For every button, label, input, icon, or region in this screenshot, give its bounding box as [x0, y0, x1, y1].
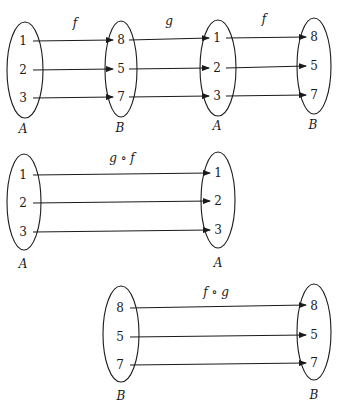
function-label: g — [165, 14, 173, 28]
element: 2 — [19, 196, 27, 210]
element: 2 — [19, 63, 27, 77]
element: 8 — [117, 33, 125, 47]
element: 7 — [310, 88, 318, 102]
mapping-arrow — [129, 96, 209, 97]
mapping-arrow — [129, 38, 209, 40]
mapping-arrow — [33, 69, 113, 70]
element: 7 — [117, 90, 125, 104]
element: 8 — [116, 301, 124, 315]
element: 1 — [19, 34, 27, 48]
mapping-arrow — [33, 173, 210, 175]
mapping-arrow — [226, 37, 306, 38]
function-label: f ∘ g — [202, 285, 229, 299]
mapping-arrow — [130, 363, 306, 365]
set-label: A — [18, 257, 28, 271]
mapping-arrow — [33, 97, 113, 98]
element: 1 — [19, 168, 27, 182]
element: 1 — [214, 166, 222, 180]
g-compose-f-diagram: 1 2 3 1 2 3 g ∘ f A A — [7, 151, 235, 271]
mapping-arrow — [33, 40, 113, 41]
f-compose-g-diagram: 8 5 7 8 5 7 f ∘ g B B — [103, 284, 331, 403]
function-composition-diagram: 1 2 3 8 5 7 1 2 3 8 5 7 f g f A B A B — [0, 0, 343, 413]
element: 2 — [213, 61, 221, 75]
set-label: A — [212, 119, 222, 133]
element: 5 — [310, 59, 318, 73]
element: 5 — [310, 328, 318, 342]
element: 5 — [117, 62, 125, 76]
mapping-arrow — [226, 95, 306, 96]
element: 5 — [116, 330, 124, 344]
element: 3 — [214, 223, 222, 237]
element: 3 — [19, 91, 27, 105]
element: 3 — [213, 89, 221, 103]
mapping-arrow — [33, 201, 210, 203]
set-label: A — [18, 122, 28, 136]
function-label: f — [72, 16, 80, 30]
mapping-arrow — [226, 66, 306, 68]
set-label: B — [309, 388, 319, 402]
set-label: B — [115, 121, 125, 135]
mapping-arrow — [129, 68, 209, 69]
element: 7 — [310, 356, 318, 370]
function-label: g ∘ f — [109, 151, 137, 165]
element: 8 — [310, 299, 318, 313]
mapping-arrow — [33, 230, 210, 232]
element: 3 — [19, 225, 27, 239]
set-label: B — [308, 118, 318, 132]
element: 8 — [310, 30, 318, 44]
element: 7 — [116, 358, 124, 372]
mapping-arrow — [130, 305, 306, 308]
element: 1 — [213, 31, 221, 45]
set-label: A — [213, 256, 223, 270]
chain-diagram: 1 2 3 8 5 7 1 2 3 8 5 7 f g f A B A B — [7, 12, 331, 136]
set-label: B — [116, 389, 126, 403]
element: 2 — [214, 194, 222, 208]
mapping-arrow — [130, 335, 306, 337]
function-label: f — [261, 12, 269, 26]
